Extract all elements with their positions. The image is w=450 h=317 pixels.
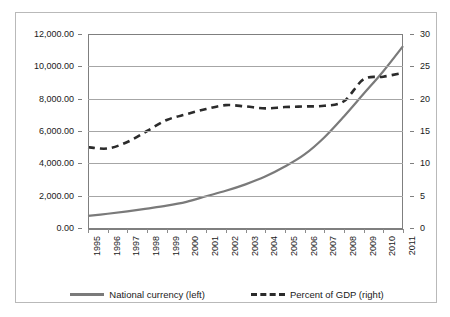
x-axis-tick-label: 2011	[407, 236, 417, 255]
x-axis-tick-label: 2004	[269, 236, 279, 256]
x-axis-tick-label: 2001	[210, 236, 220, 256]
y-axis-left-tick-label: 8,000.00	[39, 94, 74, 104]
legend-swatch-solid-icon	[70, 293, 104, 296]
x-axis-tick-label: 1999	[171, 236, 181, 256]
gridline	[88, 99, 403, 100]
y-axis-left-tick-label: 10,000.00	[34, 61, 74, 71]
y-axis-left-tick	[78, 66, 82, 67]
x-axis-tick	[167, 229, 168, 233]
legend-label: National currency (left)	[109, 289, 205, 300]
y-axis-left-tick	[78, 228, 82, 229]
x-axis-tick-label: 2010	[387, 236, 397, 256]
x-axis-tick	[246, 229, 247, 233]
x-axis-tick-label: 2006	[309, 236, 319, 256]
y-axis-right-tick	[410, 131, 414, 132]
y-axis-left-tick-label: 6,000.00	[39, 126, 74, 136]
chart-container: 0.002,000.004,000.006,000.008,000.0010,0…	[15, 12, 437, 303]
y-axis-left-tick	[78, 34, 82, 35]
y-axis-right-tick-label: 0	[420, 223, 425, 233]
x-axis-tick	[344, 229, 345, 233]
y-axis-left-tick-label: 4,000.00	[39, 158, 74, 168]
x-axis-tick-label: 2003	[250, 236, 260, 256]
y-axis-left-tick	[78, 196, 82, 197]
x-axis-tick	[265, 229, 266, 233]
y-axis-left: 0.002,000.004,000.006,000.008,000.0010,0…	[16, 34, 82, 228]
x-axis-tick-label: 2005	[289, 236, 299, 256]
x-axis-tick	[403, 229, 404, 233]
x-axis: 1995199619971998199920002001200220032004…	[88, 229, 403, 281]
x-axis-tick-label: 2002	[230, 236, 240, 256]
x-axis-tick	[285, 229, 286, 233]
y-axis-left-tick-label: 2,000.00	[39, 191, 74, 201]
y-axis-right-tick-label: 15	[420, 126, 430, 136]
y-axis-left-tick-label: 0.00	[56, 223, 74, 233]
x-axis-tick	[88, 229, 89, 233]
y-axis-right-tick	[410, 66, 414, 67]
y-axis-left-tick	[78, 99, 82, 100]
y-axis-right: 051015202530	[410, 34, 440, 228]
y-axis-right-tick	[410, 99, 414, 100]
x-axis-tick	[127, 229, 128, 233]
y-axis-left-tick	[78, 163, 82, 164]
legend-swatch-dashed-icon	[251, 293, 285, 296]
y-axis-left-tick	[78, 131, 82, 132]
chart-legend: National currency (left)Percent of GDP (…	[16, 285, 438, 303]
plot-area	[88, 34, 403, 228]
y-axis-right-tick	[410, 34, 414, 35]
y-axis-right-tick-label: 20	[420, 94, 430, 104]
x-axis-tick	[206, 229, 207, 233]
series-line-2	[88, 73, 403, 149]
y-axis-right-tick-label: 5	[420, 191, 425, 201]
x-axis-tick	[226, 229, 227, 233]
x-axis-tick	[383, 229, 384, 233]
x-axis-tick-label: 1995	[92, 236, 102, 256]
y-axis-right-tick-label: 30	[420, 29, 430, 39]
x-axis-tick	[108, 229, 109, 233]
gridline	[88, 196, 403, 197]
x-axis-tick	[364, 229, 365, 233]
y-axis-right-tick	[410, 163, 414, 164]
x-axis-tick-label: 1996	[112, 236, 122, 256]
legend-label: Percent of GDP (right)	[290, 289, 384, 300]
y-axis-right-tick-label: 25	[420, 61, 430, 71]
gridline	[88, 163, 403, 164]
x-axis-tick-label: 2008	[348, 236, 358, 256]
legend-item-1[interactable]: National currency (left)	[70, 289, 205, 300]
x-axis-tick-label: 2009	[368, 236, 378, 256]
x-axis-tick	[324, 229, 325, 233]
x-axis-tick	[147, 229, 148, 233]
y-axis-left-tick-label: 12,000.00	[34, 29, 74, 39]
gridline	[88, 131, 403, 132]
x-axis-tick-label: 1998	[151, 236, 161, 256]
x-axis-tick-label: 2000	[190, 236, 200, 256]
x-axis-tick	[305, 229, 306, 233]
gridline	[88, 34, 403, 35]
x-axis-tick-label: 2007	[328, 236, 338, 256]
legend-item-2[interactable]: Percent of GDP (right)	[251, 289, 384, 300]
gridline	[88, 66, 403, 67]
y-axis-right-tick	[410, 228, 414, 229]
y-axis-right-tick-label: 10	[420, 158, 430, 168]
y-axis-right-tick	[410, 196, 414, 197]
x-axis-tick	[186, 229, 187, 233]
x-axis-tick-label: 1997	[131, 236, 141, 256]
